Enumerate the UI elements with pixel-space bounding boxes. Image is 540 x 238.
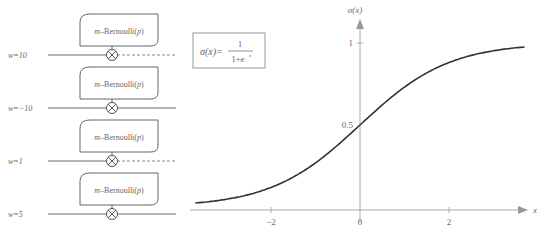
multiply-circle-icon	[107, 103, 118, 114]
figure-canvas: m–Bernoulli(p)w=10m–Bernoulli(p)w=−10m–B…	[0, 0, 540, 238]
block-label: m–Bernoulli(p)	[94, 27, 144, 36]
x-axis-label: x	[532, 205, 537, 215]
multiply-circle-icon	[107, 156, 118, 167]
y-tick-1: 1	[349, 38, 354, 48]
sigmoid-formula-box: σ(x)= 1 1+e x	[193, 33, 265, 68]
x-tick-2: 2	[447, 217, 452, 227]
block-label: m–Bernoulli(p)	[94, 133, 144, 142]
weight-label: w=1	[8, 157, 23, 166]
multiply-circle-icon	[107, 209, 118, 220]
weight-label: w=10	[8, 51, 27, 60]
weight-label: w=5	[8, 210, 23, 219]
x-tick-neg2: −2	[266, 217, 276, 227]
multiply-circle-icon	[107, 50, 118, 61]
bernoulli-block: m–Bernoulli(p)w=10	[8, 14, 176, 61]
bernoulli-block: m–Bernoulli(p)w=−10	[8, 67, 176, 114]
x-tick-0: 0	[358, 217, 363, 227]
weight-label: w=−10	[8, 104, 32, 113]
bernoulli-block: m–Bernoulli(p)w=1	[8, 120, 176, 167]
block-label: m–Bernoulli(p)	[94, 80, 144, 89]
formula-lhs: σ(x)=	[200, 46, 223, 58]
formula-denominator: 1+e	[232, 54, 245, 64]
y-axis-label: σ(x)	[348, 5, 362, 15]
formula-numerator: 1	[238, 39, 243, 49]
bernoulli-block: m–Bernoulli(p)w=5	[8, 173, 176, 220]
block-label: m–Bernoulli(p)	[94, 186, 144, 195]
bernoulli-blocks: m–Bernoulli(p)w=10m–Bernoulli(p)w=−10m–B…	[8, 14, 176, 220]
y-tick-0.5: 0.5	[342, 120, 354, 130]
